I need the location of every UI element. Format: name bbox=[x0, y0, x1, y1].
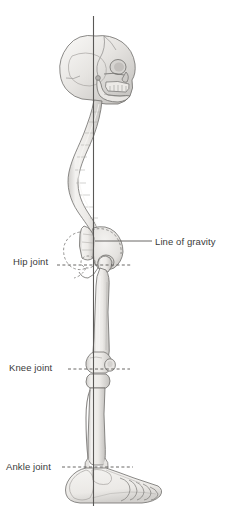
tibia-shaft bbox=[88, 388, 105, 465]
spine-shape bbox=[68, 100, 102, 236]
tibia-fibula bbox=[85, 374, 110, 470]
tibial-plateau bbox=[86, 374, 110, 388]
line-of-gravity-diagram: Line of gravity Hip joint Knee joint Ank… bbox=[0, 0, 236, 512]
label-hip-joint: Hip joint bbox=[13, 256, 48, 267]
skull bbox=[60, 35, 136, 104]
femur bbox=[86, 256, 112, 373]
femur-shaft bbox=[93, 268, 110, 360]
label-line-of-gravity: Line of gravity bbox=[155, 236, 216, 247]
label-ankle-joint: Ankle joint bbox=[6, 461, 51, 472]
label-knee-joint: Knee joint bbox=[9, 362, 52, 373]
vertebral-column bbox=[68, 100, 102, 236]
foot bbox=[66, 468, 162, 503]
